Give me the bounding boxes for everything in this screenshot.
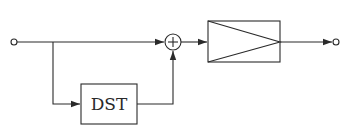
input-terminal: [11, 39, 17, 45]
amplifier-block: [208, 21, 280, 62]
edge-input-to-dst: [53, 42, 80, 104]
summing-junction: [165, 34, 181, 50]
edge-dst-to-sum: [137, 51, 173, 104]
block-diagram: DST: [0, 0, 345, 133]
dst-label: DST: [91, 94, 128, 114]
output-terminal: [333, 39, 339, 45]
dst-block: DST: [81, 84, 137, 124]
